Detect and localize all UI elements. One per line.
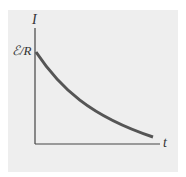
- y-axis-label: I: [32, 13, 37, 27]
- decay-curve: [36, 52, 153, 137]
- x-axis-label: t: [163, 136, 167, 150]
- chart-plot: [0, 0, 186, 177]
- y-intercept-label: ℰ/R: [12, 44, 32, 57]
